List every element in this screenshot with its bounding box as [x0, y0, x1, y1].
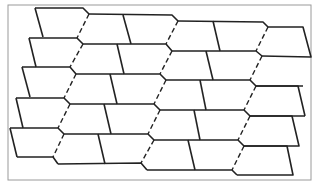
solid-edge — [154, 140, 244, 146]
dashed-edge — [53, 134, 64, 157]
solid-edge — [147, 170, 237, 175]
dashed-edge — [77, 14, 89, 38]
dashed-edge — [154, 80, 166, 104]
dashed-edge — [232, 146, 244, 170]
solid-edge — [35, 8, 89, 14]
solid-edge — [206, 51, 213, 80]
solid-edge — [58, 163, 147, 170]
solid-edge — [244, 116, 299, 146]
solid-edge — [16, 98, 70, 104]
solid-edge — [17, 157, 58, 164]
dashed-edge — [250, 56, 262, 80]
solid-edge — [256, 86, 305, 116]
dashed-edge — [148, 110, 160, 134]
solid-edge — [10, 128, 64, 134]
solid-edge — [89, 14, 178, 21]
solid-edge — [98, 134, 105, 164]
solid-edge — [22, 67, 76, 74]
solid-edge — [22, 67, 30, 97]
solid-edge — [76, 74, 166, 80]
solid-edge — [110, 74, 117, 104]
dashed-edge — [166, 21, 178, 44]
solid-edge — [64, 134, 154, 140]
dashed-edge — [244, 86, 256, 110]
solid-edge — [29, 38, 36, 67]
solid-edge — [104, 104, 111, 134]
solid-edge — [166, 80, 256, 86]
solid-edge — [178, 21, 268, 27]
dashed-edge — [141, 140, 154, 163]
dashed-edge — [238, 116, 250, 140]
solid-edge — [70, 104, 160, 110]
dashed-edge — [256, 27, 268, 51]
solid-edge — [35, 8, 43, 37]
solid-edge — [83, 44, 172, 51]
tessellation-svg — [0, 0, 317, 186]
dashed-edge — [58, 104, 70, 128]
dashed-edges — [53, 14, 268, 170]
solid-edge — [194, 110, 200, 140]
dashed-edge — [160, 51, 172, 74]
solid-edge — [237, 146, 293, 175]
solid-edge — [262, 27, 311, 57]
solid-edge — [16, 98, 23, 128]
solid-edge — [29, 38, 83, 44]
dashed-edge — [70, 44, 83, 67]
dashed-edge — [64, 74, 76, 98]
solid-edge — [10, 128, 17, 157]
solid-edge — [160, 110, 250, 116]
tessellation-diagram — [0, 0, 317, 186]
solid-edge — [123, 15, 131, 44]
solid-edge — [200, 80, 206, 110]
solid-edge — [172, 51, 262, 56]
solid-edge — [188, 140, 195, 170]
solid-edge — [213, 21, 220, 51]
solid-edge — [117, 44, 124, 74]
